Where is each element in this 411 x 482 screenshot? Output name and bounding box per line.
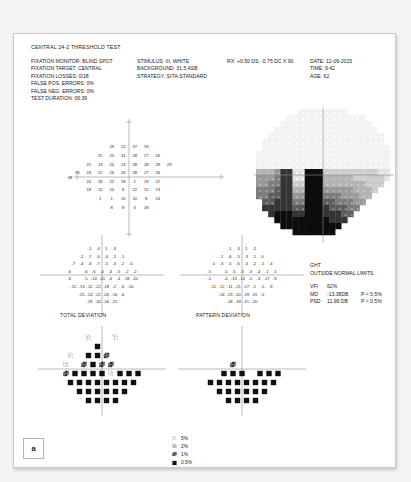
svg-text:-3: -3 (240, 269, 244, 274)
svg-text:22: 22 (132, 187, 137, 192)
svg-text:22: 22 (98, 170, 103, 175)
age-line: AGE: 62 (310, 73, 352, 80)
legend-label: 0.5% (181, 460, 192, 465)
svg-text:-5: -5 (211, 261, 215, 266)
svg-text:1: 1 (111, 196, 114, 201)
svg-text:-7: -7 (96, 261, 100, 266)
svg-text:-1: -1 (88, 246, 92, 251)
svg-text:-5: -5 (232, 269, 236, 274)
svg-text:24: 24 (121, 162, 126, 167)
printout-page: CENTRAL 24-2 THRESHOLD TEST FIXATION MON… (0, 0, 411, 482)
svg-text:10: 10 (132, 196, 137, 201)
svg-text:-5: -5 (248, 276, 252, 281)
time-line: TIME: 9:42 (310, 65, 352, 72)
svg-text:22: 22 (121, 144, 126, 149)
svg-text:26: 26 (155, 153, 160, 158)
legend-item: 2% (171, 442, 192, 450)
svg-text:-10: -10 (132, 276, 139, 281)
svg-text:10: 10 (109, 187, 114, 192)
total-deviation-probability-svg (34, 322, 170, 422)
false-pos-errors-line: FALSE POS. ERRORS: 0% (31, 80, 113, 87)
svg-text:-18: -18 (227, 299, 234, 304)
date-line: DATE: 12-09-2015 (310, 58, 352, 65)
threshold-plot-svg: 2922271925253128272621232424282829293824… (26, 107, 226, 247)
svg-text:-21: -21 (235, 284, 242, 289)
md-label: MD (310, 291, 327, 299)
svg-text:29: 29 (109, 144, 114, 149)
psd-value: 11.99 DB (327, 298, 361, 306)
svg-text:29: 29 (167, 162, 172, 167)
svg-text:-2: -2 (133, 269, 137, 274)
svg-text:-21: -21 (111, 299, 118, 304)
svg-text:-2: -2 (112, 254, 116, 259)
svg-text:38: 38 (68, 175, 73, 180)
svg-text:-3: -3 (220, 261, 224, 266)
svg-text:1: 1 (99, 196, 102, 201)
svg-text:15: 15 (144, 187, 149, 192)
grayscale-map-svg: 38 (252, 106, 394, 246)
svg-text:-5: -5 (236, 254, 240, 259)
psd-probability: P < 0.5% (361, 298, 382, 304)
svg-text:-10: -10 (128, 284, 135, 289)
legend-item: 5% (171, 434, 192, 442)
svg-text:-4: -4 (104, 254, 108, 259)
svg-text:-2: -2 (121, 261, 125, 266)
svg-text:-6: -6 (96, 254, 100, 259)
svg-text:-18: -18 (124, 276, 131, 281)
ght-value: OUTSIDE NORMAL LIMITS (310, 270, 382, 278)
svg-text:-13: -13 (79, 284, 86, 289)
rx-line: RX: +0.50 DS, -0.75 DC X 90 (227, 58, 293, 65)
svg-text:-3: -3 (248, 269, 252, 274)
svg-text:26: 26 (155, 170, 160, 175)
legend-item: 0.5% (171, 459, 192, 467)
svg-text:-6: -6 (121, 284, 125, 289)
test-duration-line: TEST DURATION: 06:39 (31, 95, 113, 102)
svg-text:25: 25 (109, 153, 114, 158)
svg-text:14: 14 (155, 196, 160, 201)
svg-text:28: 28 (132, 162, 137, 167)
svg-text:26: 26 (109, 170, 114, 175)
patient-meta-block: DATE: 12-09-2015 TIME: 9:42 AGE: 62 (310, 58, 352, 80)
vfi-label: VFI (310, 283, 327, 291)
svg-text:-17: -17 (264, 276, 271, 281)
md-row: MD-13.38DBP < 0.5% (310, 291, 382, 299)
legend-item: 1% (171, 450, 192, 458)
svg-text:-21: -21 (95, 292, 102, 297)
pattern-deviation-numeric-plot: -1-31-2-1-6-5-3-10-5-3-5-6-4-2-1-4-5-5-5… (174, 231, 310, 317)
svg-text:-6: -6 (228, 254, 232, 259)
total-deviation-numeric-svg: -1-41-3-2-7-6-4-2-1-7-4-6-7-5-3-2-5-6-6-… (34, 231, 170, 317)
svg-text:-11: -11 (210, 284, 216, 289)
svg-text:-20: -20 (103, 292, 110, 297)
svg-text:-13: -13 (231, 276, 238, 281)
svg-text:-1: -1 (261, 261, 265, 266)
svg-text:-5: -5 (129, 261, 133, 266)
svg-text:-5: -5 (84, 276, 88, 281)
svg-text:-1: -1 (265, 269, 269, 274)
svg-text:28: 28 (132, 170, 137, 175)
strategy-line: STRATEGY: SITA-STANDARD (137, 73, 207, 80)
svg-text:-17: -17 (243, 284, 250, 289)
svg-text:-4: -4 (269, 261, 273, 266)
svg-text:-3: -3 (244, 254, 248, 259)
svg-text:-6: -6 (84, 269, 88, 274)
ght-label: GHT (310, 262, 382, 270)
svg-text:18: 18 (144, 205, 149, 210)
svg-text:-2: -2 (125, 269, 129, 274)
svg-text:-4: -4 (80, 261, 84, 266)
hfa-printout-sheet: CENTRAL 24-2 THRESHOLD TEST FIXATION MON… (13, 33, 396, 468)
svg-text:-23: -23 (227, 292, 234, 297)
svg-text:-6: -6 (121, 292, 125, 297)
threshold-numeric-plot: 2922271925253128272621232424282829293824… (26, 107, 226, 247)
false-neg-errors-line: FALSE NEG. ERRORS: 0% (31, 88, 113, 95)
svg-text:-5: -5 (207, 269, 211, 274)
svg-text:27: 27 (144, 153, 149, 158)
svg-text:-5: -5 (261, 284, 265, 289)
svg-text:-19: -19 (235, 299, 242, 304)
svg-text:-5: -5 (261, 292, 265, 297)
md-probability: P < 0.5% (361, 291, 382, 297)
legend-label: 5% (181, 436, 188, 441)
svg-text:8: 8 (122, 205, 125, 210)
pattern-deviation-probability-plot (174, 322, 310, 422)
background-line: BACKGROUND: 31.5 ASB (137, 65, 207, 72)
svg-text:19: 19 (144, 144, 149, 149)
